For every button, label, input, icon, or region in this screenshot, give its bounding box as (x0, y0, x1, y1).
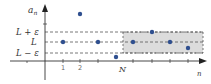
point-3 (96, 40, 100, 44)
point-N (114, 55, 118, 59)
y-axis-arrow-icon (42, 4, 48, 12)
point-7 (168, 40, 172, 44)
x-tick-label-2: 2 (78, 64, 82, 72)
point-1 (61, 40, 65, 44)
x-tick-label-1: 1 (61, 64, 65, 72)
point-6 (150, 30, 154, 34)
limit-label: L (30, 37, 37, 47)
x-axis-arrow-icon (199, 58, 207, 64)
lower-bound-label: L − ε (15, 48, 39, 58)
x-tick-label-N: N (118, 65, 127, 74)
x-axis-label: n (197, 70, 202, 78)
point-8 (186, 46, 190, 50)
y-axis-label: an (28, 5, 37, 16)
convergence-diagram: an L + ε L L − ε 1 2 N n (0, 0, 211, 84)
upper-bound-label: L + ε (15, 27, 39, 37)
point-2 (78, 12, 82, 16)
point-5 (131, 40, 135, 44)
